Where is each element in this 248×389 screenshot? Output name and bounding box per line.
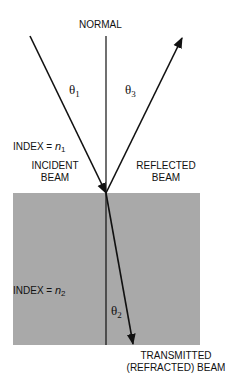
- ray-diagram: [0, 0, 248, 389]
- theta3-label: θ3: [125, 82, 136, 99]
- normal-label: NORMAL: [79, 19, 122, 31]
- transmitted-beam-line: [106, 193, 133, 344]
- incident-beam-label: INCIDENT BEAM: [26, 160, 84, 184]
- theta2-label: θ2: [111, 303, 122, 320]
- index-n1-label: INDEX = n1: [13, 140, 66, 156]
- index-n2-label: INDEX = n2: [13, 284, 66, 300]
- theta1-label: θ1: [69, 82, 80, 99]
- reflected-beam-label: REFLECTED BEAM: [130, 160, 202, 184]
- transmitted-beam-label: TRANSMITTED (REFRACTED) BEAM: [116, 350, 236, 374]
